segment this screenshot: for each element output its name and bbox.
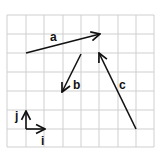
- vector-b: b: [62, 54, 81, 92]
- vector-a-label: a: [50, 30, 57, 44]
- grid: [7, 15, 154, 147]
- basis-i-label: i: [41, 134, 44, 148]
- basis-j-label: j: [14, 109, 18, 123]
- vector-diagram: abc ij: [0, 0, 162, 155]
- vector-c-label: c: [119, 78, 126, 92]
- vector-b-label: b: [73, 78, 80, 92]
